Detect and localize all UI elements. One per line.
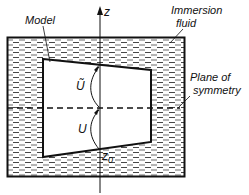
z-axis-label: z [104, 6, 110, 18]
diagram: z Model Immersion fluid Plane of symmetr… [0, 0, 249, 195]
z0-subscript: 0 [108, 155, 113, 165]
fluid-label-line1: Immersion [171, 4, 222, 16]
fluid-label-line2: fluid [176, 17, 196, 29]
z0-label: z0 [102, 150, 113, 163]
z-axis-arrowhead [97, 6, 103, 15]
diagram-graphic [0, 0, 249, 195]
u-label: U [78, 123, 87, 135]
u-tilde-label: Ũ [76, 80, 85, 92]
plane-label-line2: symmetry [193, 84, 241, 96]
plane-label-line1: Plane of [190, 71, 230, 83]
model-label: Model [25, 14, 55, 26]
